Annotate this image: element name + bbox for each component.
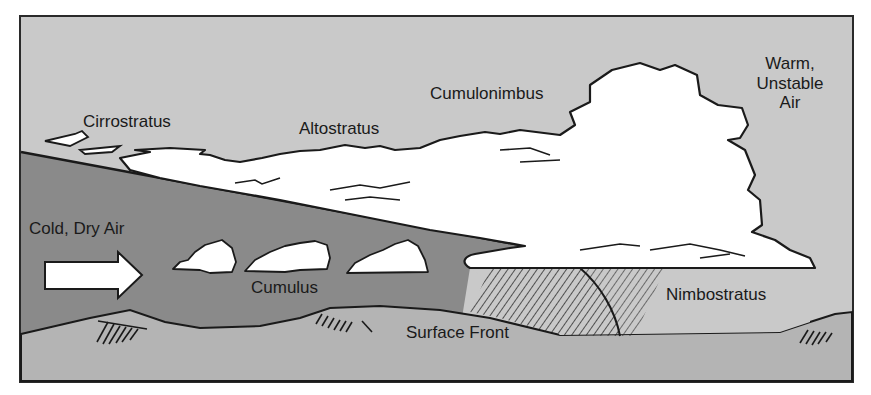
label-surface-front: Surface Front <box>406 323 509 343</box>
label-altostratus: Altostratus <box>299 119 379 139</box>
label-cumulus: Cumulus <box>251 278 318 298</box>
label-warm-line3: Air <box>752 93 828 113</box>
label-warm-line1: Warm, <box>752 54 828 74</box>
label-warm-unstable-air: Warm, Unstable Air <box>752 54 828 113</box>
label-cold-dry-air: Cold, Dry Air <box>29 219 124 239</box>
label-cumulonimbus: Cumulonimbus <box>430 84 543 104</box>
label-warm-line2: Unstable <box>752 74 828 94</box>
label-cirrostratus: Cirrostratus <box>83 112 171 132</box>
label-nimbostratus: Nimbostratus <box>666 285 766 305</box>
